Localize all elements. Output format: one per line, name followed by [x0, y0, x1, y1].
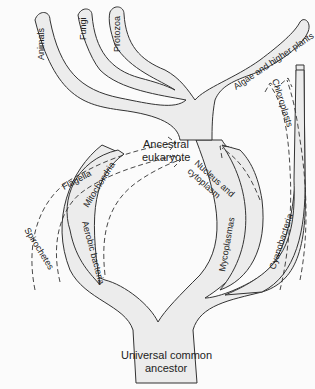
label-fungi: Fungi [78, 17, 88, 40]
label-animals: Animals [36, 27, 46, 60]
node-universal-ancestor-line2: ancestor [145, 362, 188, 374]
node-universal-ancestor-line1: Universal common [121, 349, 212, 361]
eukaryote-stem [35, 7, 309, 140]
node-ancestral-eukaryote-line1: Ancestral [143, 138, 189, 150]
label-spirochetes: Spirochetes [22, 226, 56, 272]
label-protozoa: Protozoa [112, 16, 122, 52]
tree-diagram: Animals Fungi Protozoa Algae and higher … [0, 0, 315, 389]
arrow-mitochondria [104, 155, 181, 275]
diagram-canvas: Animals Fungi Protozoa Algae and higher … [0, 0, 315, 389]
node-ancestral-eukaryote-line2: eukaryote [142, 151, 190, 163]
